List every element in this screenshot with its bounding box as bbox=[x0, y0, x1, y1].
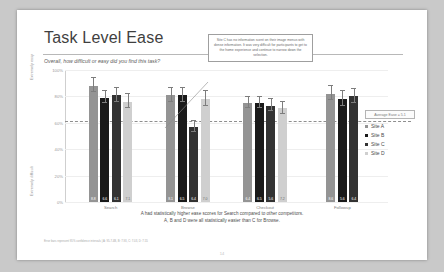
bar-site-b[interactable]: 6.6 bbox=[100, 98, 109, 202]
legend-item-label: Site C bbox=[371, 141, 385, 147]
chart-legend: Average Ease = 5.1 Site ASite BSite CSit… bbox=[365, 110, 415, 159]
average-ease-badge: Average Ease = 5.1 bbox=[365, 110, 415, 119]
error-bar bbox=[114, 87, 119, 102]
bar-value-label: 8.8 bbox=[89, 197, 98, 201]
bar-site-d[interactable]: 7.2 bbox=[278, 108, 287, 202]
bar-group: 6.46.55.67.2Checkout bbox=[227, 70, 304, 202]
error-bar bbox=[191, 120, 196, 133]
bar-site-c[interactable]: 5.6 bbox=[266, 106, 275, 202]
bar-group: 8.16.56.47.0Browse bbox=[149, 70, 226, 202]
slide-canvas: Task Level Ease Overall, how difficult o… bbox=[17, 10, 427, 260]
bar-site-b[interactable]: 6.5 bbox=[255, 103, 264, 202]
bar-site-d[interactable]: 7.0 bbox=[201, 99, 210, 202]
y-axis-tick-label: 0% bbox=[43, 200, 63, 205]
legend-item[interactable]: Site D bbox=[365, 150, 415, 156]
legend-items: Site ASite BSite CSite D bbox=[365, 123, 415, 156]
error-bar bbox=[125, 93, 130, 108]
legend-item[interactable]: Site A bbox=[365, 123, 415, 129]
error-bar bbox=[203, 90, 208, 105]
y-axis-tick-label: 80% bbox=[43, 94, 63, 99]
bar-site-c[interactable]: 6.4 bbox=[349, 96, 358, 202]
bar-site-a[interactable]: 6.4 bbox=[243, 103, 252, 202]
error-bar bbox=[340, 90, 345, 105]
page-subtitle: Overall, how difficult or easy did you f… bbox=[44, 58, 160, 64]
bar-site-a[interactable]: 8.1 bbox=[166, 95, 175, 202]
callout-annotation: Site C has no information scent on their… bbox=[208, 34, 313, 62]
legend-swatch-icon bbox=[365, 152, 368, 155]
page-number: 14 bbox=[17, 251, 427, 256]
y-axis-label-top: Extremely easy bbox=[30, 54, 34, 80]
bar-site-b[interactable]: 5.6 bbox=[338, 99, 347, 202]
bar-value-label: 8.6 bbox=[326, 197, 335, 201]
error-bar bbox=[91, 77, 96, 92]
bar-site-b[interactable]: 6.5 bbox=[178, 95, 187, 202]
error-bar bbox=[257, 96, 262, 109]
bar-site-c[interactable]: 6.1 bbox=[112, 95, 121, 202]
bar-value-label: 6.4 bbox=[189, 197, 198, 201]
legend-item[interactable]: Site B bbox=[365, 132, 415, 138]
error-bar bbox=[168, 87, 173, 102]
conclusion-text: A had statistically higher ease scores f… bbox=[72, 210, 372, 225]
error-bar bbox=[280, 101, 285, 114]
conclusion-line-2: A, B and D were all statistically easier… bbox=[72, 217, 372, 224]
legend-item-label: Site A bbox=[371, 123, 384, 129]
y-axis-label-bottom: Extremely difficult bbox=[30, 166, 34, 196]
bar-value-label: 7.1 bbox=[123, 197, 132, 201]
conclusion-line-1: A had statistically higher ease scores f… bbox=[72, 210, 372, 217]
error-bar bbox=[268, 98, 273, 111]
legend-swatch-icon bbox=[365, 125, 368, 128]
bar-site-a[interactable]: 8.8 bbox=[89, 86, 98, 202]
bar-site-c[interactable]: 6.4 bbox=[189, 127, 198, 202]
grid-line bbox=[65, 202, 388, 203]
bar-value-label: 6.4 bbox=[243, 197, 252, 201]
bar-value-label: 5.6 bbox=[338, 197, 347, 201]
bar-value-label: 7.2 bbox=[278, 197, 287, 201]
bar-value-label: 6.4 bbox=[349, 197, 358, 201]
legend-item-label: Site D bbox=[371, 150, 385, 156]
bar-value-label: 6.1 bbox=[112, 197, 121, 201]
bar-group: 8.86.66.17.1Search bbox=[72, 70, 149, 202]
bar-value-label: 8.1 bbox=[166, 197, 175, 201]
legend-swatch-icon bbox=[365, 143, 368, 146]
legend-item-label: Site B bbox=[371, 132, 384, 138]
footnote-text: Error bars represent 95% confidence inte… bbox=[44, 239, 344, 243]
legend-swatch-icon bbox=[365, 134, 368, 137]
y-axis bbox=[65, 70, 66, 202]
bar-site-d[interactable]: 7.1 bbox=[123, 102, 132, 202]
bar-site-a[interactable]: 8.6 bbox=[326, 94, 335, 202]
y-axis-tick-label: 20% bbox=[43, 174, 63, 179]
bar-value-label: 6.6 bbox=[100, 197, 109, 201]
bar-value-label: 6.5 bbox=[178, 197, 187, 201]
error-bar bbox=[180, 87, 185, 102]
error-bar bbox=[351, 88, 356, 103]
error-bar bbox=[102, 90, 107, 103]
y-axis-tick-label: 60% bbox=[43, 121, 63, 126]
bar-value-label: 7.0 bbox=[201, 197, 210, 201]
y-axis-tick-label: 40% bbox=[43, 147, 63, 152]
bar-value-label: 6.5 bbox=[255, 197, 264, 201]
legend-item[interactable]: Site C bbox=[365, 141, 415, 147]
error-bar bbox=[245, 96, 250, 109]
error-bar bbox=[328, 85, 333, 100]
bar-chart: 100%80%60%40%20%0% Extremely easy Extrem… bbox=[43, 70, 388, 202]
bar-value-label: 5.6 bbox=[266, 197, 275, 201]
y-axis-tick-label: 100% bbox=[43, 68, 63, 73]
page-title: Task Level Ease bbox=[44, 29, 164, 47]
